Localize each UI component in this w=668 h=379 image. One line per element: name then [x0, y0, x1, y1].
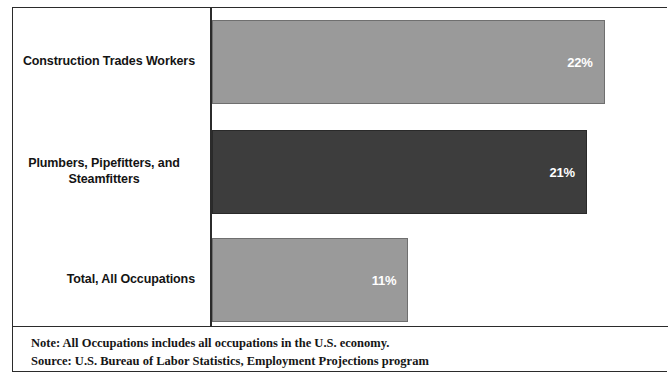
category-label-line: Construction Trades Workers	[23, 54, 195, 70]
category-label-total-all-occupations: Total, All Occupations	[13, 238, 201, 322]
bar-value-label: 22%	[567, 55, 603, 70]
category-label-line: Total, All Occupations	[67, 272, 195, 288]
chart-row: Construction Trades Workers 22%	[13, 20, 668, 104]
chart-row: Plumbers, Pipefitters, andSteamfitters 2…	[13, 130, 668, 214]
category-label-line: Plumbers, Pipefitters, and	[28, 156, 180, 170]
bar-plumbers-pipefitters-steamfitters: 21%	[212, 130, 587, 214]
chart-figure: Construction Trades Workers 22% Plumbers…	[12, 7, 667, 372]
footnote-note: Note: All Occupations includes all occup…	[31, 335, 668, 353]
category-label-construction-trades-workers: Construction Trades Workers	[13, 20, 201, 104]
bar-construction-trades-workers: 22%	[212, 20, 605, 104]
plot-area: Construction Trades Workers 22% Plumbers…	[13, 8, 668, 327]
footnote-block: Note: All Occupations includes all occup…	[13, 327, 668, 373]
bar-total-all-occupations: 11%	[212, 238, 408, 322]
chart-row: Total, All Occupations 11%	[13, 238, 668, 322]
footnote-source: Source: U.S. Bureau of Labor Statistics,…	[31, 353, 668, 371]
category-label-text: Plumbers, Pipefitters, andSteamfitters	[28, 156, 180, 187]
bar-value-label: 21%	[549, 165, 585, 180]
category-label-plumbers-pipefitters-steamfitters: Plumbers, Pipefitters, andSteamfitters	[13, 130, 201, 214]
category-label-line: Steamfitters	[68, 172, 139, 186]
bar-value-label: 11%	[372, 273, 408, 288]
